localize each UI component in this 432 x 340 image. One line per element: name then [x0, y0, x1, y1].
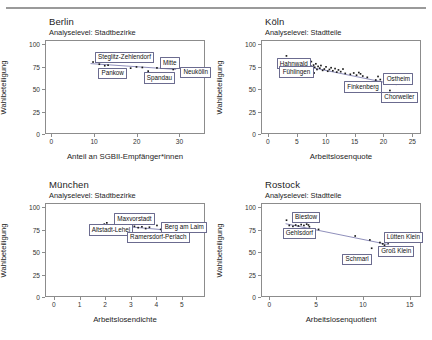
x-tick-label: 15 — [406, 301, 413, 308]
x-tick-label: 1 — [78, 301, 82, 308]
y-tick-label: 100 — [29, 41, 40, 48]
panel-berlin: BerlinAnalyselevel: StadtbezirkeWahlbete… — [0, 14, 216, 177]
x-tick-mark — [94, 134, 95, 137]
x-axis-label: Arbeitslosenquote — [261, 152, 421, 161]
x-tick-label: 10 — [90, 138, 97, 145]
panel-münchen: MünchenAnalyselevel: StadtbezirkeWahlbet… — [0, 177, 216, 340]
data-point — [354, 235, 356, 237]
x-tick-label: 0 — [50, 138, 54, 145]
x-tick-label: 5 — [314, 301, 318, 308]
data-point — [329, 69, 331, 71]
data-point — [318, 229, 320, 231]
data-point — [306, 223, 308, 225]
y-tick-label: 25 — [33, 108, 40, 115]
data-point — [327, 70, 329, 72]
point-label-callout: Ostheim — [383, 73, 413, 84]
y-axis-label-text: Wahlbeteiligung — [0, 223, 9, 277]
y-tick-label: 100 — [29, 204, 40, 211]
y-axis-label-text: Wahlbeteiligung — [216, 223, 225, 277]
y-axis-label: Wahlbeteiligung — [0, 40, 10, 134]
x-tick-label: 5 — [180, 301, 184, 308]
panel-subtitle: Analyselevel: Stadtbezirke — [49, 191, 136, 200]
point-label-callout: Maxvorstadt — [114, 213, 155, 224]
panel-title: Köln — [265, 16, 284, 27]
panel-subtitle: Analyselevel: Stadtteile — [265, 191, 341, 200]
x-tick-mark — [105, 297, 106, 300]
x-tick-label: 15 — [351, 138, 358, 145]
y-axis-label: Wahlbeteiligung — [214, 203, 226, 297]
x-tick-label: 0 — [266, 138, 270, 145]
point-label-callout: Mitte — [160, 57, 180, 68]
panel-title: Berlin — [49, 16, 74, 27]
y-tick-label: 100 — [245, 41, 256, 48]
x-tick-mark — [297, 134, 298, 137]
x-tick-mark — [363, 297, 364, 300]
x-tick-label: 20 — [380, 138, 387, 145]
data-point — [330, 67, 332, 69]
y-tick-label: 75 — [249, 226, 256, 233]
x-tick-mark — [355, 134, 356, 137]
panel-subtitle: Analyselevel: Stadtbezirke — [49, 28, 136, 37]
point-label-callout: Neukölln — [180, 67, 211, 78]
figure-canvas: BerlinAnalyselevel: StadtbezirkeWahlbete… — [0, 0, 432, 340]
x-tick-mark — [179, 134, 180, 137]
data-point — [134, 226, 136, 228]
data-point — [107, 64, 109, 66]
x-tick-mark — [51, 134, 52, 137]
x-tick-mark — [268, 134, 269, 137]
point-label-callout: Biestow — [292, 212, 320, 223]
data-point — [362, 75, 364, 77]
x-tick-mark — [412, 134, 413, 137]
x-tick-label: 25 — [409, 138, 416, 145]
x-axis-label: Arbeitslosenquotient — [261, 315, 421, 324]
y-axis-label-text: Wahlbeteiligung — [216, 60, 225, 114]
data-point — [315, 63, 317, 65]
x-tick-label: 0 — [268, 301, 272, 308]
x-tick-mark — [410, 297, 411, 300]
x-tick-label: 20 — [133, 138, 140, 145]
y-axis-label: Wahlbeteiligung — [214, 40, 226, 134]
y-tick-label: 0 — [36, 131, 40, 138]
data-point — [141, 226, 143, 228]
x-tick-label: 2 — [103, 301, 107, 308]
y-tick-label: 0 — [36, 294, 40, 301]
data-point — [308, 224, 310, 226]
y-tick-mark — [42, 134, 45, 135]
point-label-callout: Spandau — [144, 72, 176, 83]
data-point — [295, 224, 297, 226]
data-point — [344, 73, 346, 75]
data-point — [323, 68, 325, 70]
data-point — [300, 224, 302, 226]
data-point — [313, 72, 315, 74]
data-point — [332, 70, 334, 72]
data-point — [334, 68, 336, 70]
data-point — [377, 76, 379, 78]
y-tick-label: 75 — [33, 63, 40, 70]
data-point — [338, 69, 340, 71]
y-tick-label: 25 — [33, 271, 40, 278]
x-tick-mark — [383, 134, 384, 137]
point-label-callout: Ramersdorf-Perlach — [127, 232, 190, 243]
y-tick-label: 25 — [249, 108, 256, 115]
x-tick-label: 30 — [176, 138, 183, 145]
data-point — [356, 74, 358, 76]
data-point — [104, 65, 106, 67]
x-tick-label: 10 — [322, 138, 329, 145]
point-label-callout: Schmarl — [342, 254, 371, 265]
point-label-callout: Groß Klein — [378, 246, 414, 257]
y-tick-label: 50 — [33, 249, 40, 256]
y-tick-mark — [258, 297, 261, 298]
data-point — [319, 67, 321, 69]
y-tick-mark — [42, 297, 45, 298]
x-tick-label: 10 — [359, 301, 366, 308]
panel-title: Rostock — [265, 179, 300, 190]
point-label-callout: Fühlingen — [279, 66, 313, 77]
x-tick-mark — [269, 297, 270, 300]
data-point — [379, 242, 381, 244]
data-point — [342, 68, 344, 70]
x-tick-label: 3 — [129, 301, 133, 308]
y-tick-label: 25 — [249, 271, 256, 278]
data-point — [314, 66, 316, 68]
point-label-callout: Lütten Klein — [384, 232, 424, 243]
data-point — [360, 73, 362, 75]
